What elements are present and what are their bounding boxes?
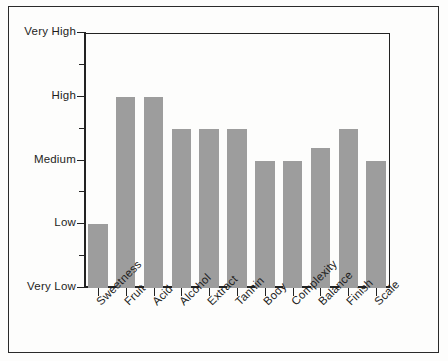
y-axis-tick-minor [79,64,86,65]
bar [144,97,163,288]
y-axis-label: Medium [34,153,76,165]
y-axis-tick-major [77,96,86,97]
y-axis-tick-major [77,287,86,288]
bar [172,129,191,288]
bar [88,224,107,288]
y-axis-tick-major [77,160,86,161]
y-axis-tick-minor [79,128,86,129]
bar [339,129,358,288]
y-axis-tick-major [77,223,86,224]
y-axis-label: High [52,89,76,101]
bars-container [84,33,390,288]
bar [366,161,385,289]
y-axis-label: Very High [24,25,76,37]
y-axis-tick-minor [79,191,86,192]
wine-profile-bar-chart: Very LowLowMediumHighVery HighSweetnessF… [0,0,448,361]
bar [199,129,218,288]
bar [255,161,274,289]
y-axis-tick-major [77,32,86,33]
bar [227,129,246,288]
y-axis-tick-minor [79,255,86,256]
y-axis-label: Low [54,216,76,228]
y-axis-label: Very Low [27,280,76,292]
bar [283,161,302,289]
